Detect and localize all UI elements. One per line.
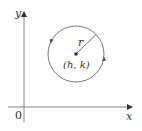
x-axis-label: x [126, 110, 133, 123]
radius-label: r [78, 36, 84, 49]
circle-arrow-right-icon [102, 57, 106, 62]
origin-label: 0 [15, 109, 22, 122]
center-label: (h, k) [63, 59, 90, 70]
diagram-canvas: y x 0 r (h, k) [0, 0, 142, 131]
center-point [75, 53, 78, 56]
y-axis-label: y [14, 7, 22, 20]
